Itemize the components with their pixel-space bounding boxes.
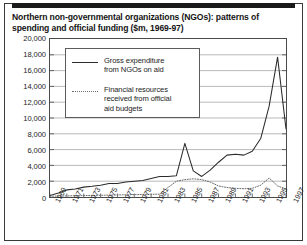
legend-item-label: Gross expenditure from NGOs on aid	[104, 56, 164, 75]
legend-item: Gross expenditure from NGOs on aid	[72, 56, 164, 75]
y-axis-tick-label: 10,000	[23, 114, 46, 123]
y-axis-tick-label: 20,000	[23, 34, 46, 43]
y-axis-tick-label: 12,000	[23, 98, 46, 107]
y-axis-tick-label: 8,000	[27, 130, 46, 139]
legend-line-swatch-dotted	[72, 87, 98, 96]
y-axis-tick-label: 14,000	[23, 82, 46, 91]
title-rule	[12, 3, 295, 8]
x-axis-labels: 1969197119731975197719791981198319851987…	[49, 200, 287, 240]
y-axis-tick-label: 2,000	[27, 178, 46, 187]
plot-area: Gross expenditure from NGOs on aidFinanc…	[49, 38, 287, 198]
y-axis-tick-label: 4,000	[27, 162, 46, 171]
y-axis-tick-label: 6,000	[27, 146, 46, 155]
legend-item: Financial resources received from offici…	[72, 85, 171, 113]
y-axis-labels: 02,0004,0006,0008,00010,00012,00014,0001…	[10, 38, 46, 200]
y-axis-tick-label: 0	[42, 194, 46, 203]
chart-plot-wrapper: 02,0004,0006,0008,00010,00012,00014,0001…	[10, 38, 292, 238]
chart-legend: Gross expenditure from NGOs on aidFinanc…	[65, 48, 200, 118]
legend-line-swatch-solid	[72, 58, 98, 67]
y-axis-tick-label: 18,000	[23, 50, 46, 59]
legend-item-label: Financial resources received from offici…	[104, 85, 171, 113]
page-title: Northern non-governmental organizations …	[12, 12, 292, 34]
figure-container: Northern non-governmental organizations …	[0, 0, 307, 245]
y-axis-tick-label: 16,000	[23, 66, 46, 75]
